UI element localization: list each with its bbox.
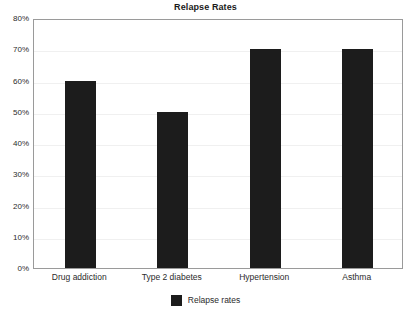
plot-area	[33, 19, 403, 269]
bar	[342, 49, 373, 268]
x-tick-label: Asthma	[342, 271, 371, 283]
y-tick-label: 70%	[0, 46, 29, 54]
legend-label: Relapse rates	[188, 295, 240, 306]
chart-legend: Relapse rates	[0, 295, 411, 306]
y-tick-label: 60%	[0, 78, 29, 86]
y-tick-label: 50%	[0, 109, 29, 117]
legend-swatch-icon	[171, 295, 182, 306]
y-tick-label: 20%	[0, 203, 29, 211]
x-tick-label: Hypertension	[239, 271, 289, 283]
y-tick-label: 80%	[0, 15, 29, 23]
bar	[250, 49, 281, 268]
chart-container: Relapse Rates 0%10%20%30%40%50%60%70%80%…	[0, 0, 411, 318]
bar-series	[34, 20, 402, 268]
x-tick-label: Type 2 diabetes	[142, 271, 202, 283]
x-axis: Drug addictionType 2 diabetesHypertensio…	[33, 271, 403, 285]
x-tick-label: Drug addiction	[52, 271, 107, 283]
y-tick-label: 30%	[0, 171, 29, 179]
chart-title: Relapse Rates	[0, 2, 411, 12]
y-tick-label: 0%	[0, 265, 29, 273]
y-tick-label: 40%	[0, 140, 29, 148]
y-tick-label: 10%	[0, 234, 29, 242]
y-axis: 0%10%20%30%40%50%60%70%80%	[0, 19, 29, 269]
bar	[157, 112, 188, 268]
bar	[65, 81, 96, 269]
